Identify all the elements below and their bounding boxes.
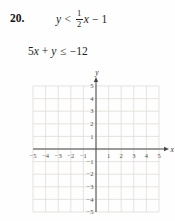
svg-text:−3: −3 [55, 152, 62, 159]
svg-text:−4: −4 [42, 152, 50, 159]
svg-text:1: 1 [90, 133, 93, 140]
svg-text:−3: −3 [87, 183, 94, 190]
svg-text:−2: −2 [67, 152, 74, 159]
svg-text:−5: −5 [87, 208, 94, 215]
svg-text:−1: −1 [87, 158, 94, 165]
svg-text:4: 4 [145, 152, 149, 159]
svg-text:3: 3 [90, 107, 93, 114]
svg-text:2: 2 [120, 152, 123, 159]
svg-text:5: 5 [90, 82, 93, 89]
svg-text:−4: −4 [87, 196, 95, 203]
coordinate-grid: xy−5−4−3−2−11234554321−1−2−3−4−5 [0, 0, 175, 221]
svg-text:x: x [170, 145, 175, 154]
svg-text:−2: −2 [87, 170, 94, 177]
svg-text:−5: −5 [30, 152, 37, 159]
svg-text:2: 2 [90, 120, 93, 127]
worksheet-page: 20. y < 1 2 x − 1 5 x + y ≤ −12 xy−5−4−3… [0, 0, 175, 221]
svg-text:y: y [94, 68, 99, 77]
svg-text:1: 1 [107, 152, 110, 159]
svg-text:5: 5 [157, 152, 160, 159]
svg-text:3: 3 [132, 152, 135, 159]
